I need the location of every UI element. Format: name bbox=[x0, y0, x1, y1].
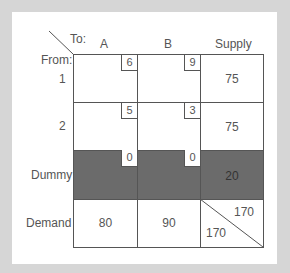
row-label-2: 2 bbox=[59, 119, 66, 133]
column-header-a: A bbox=[100, 37, 108, 51]
cost-2-b: 3 bbox=[184, 102, 201, 119]
column-header-supply: Supply bbox=[215, 37, 252, 51]
row-label-demand: Demand bbox=[26, 216, 71, 230]
cost-dummy-b: 0 bbox=[184, 150, 201, 167]
cost-2-a: 5 bbox=[121, 102, 138, 119]
demand-a: 80 bbox=[73, 216, 138, 230]
to-label: To: bbox=[70, 32, 86, 46]
supply-dummy: 20 bbox=[200, 169, 264, 183]
supply-1: 75 bbox=[200, 72, 264, 86]
cell-totals bbox=[200, 199, 264, 248]
row-label-dummy: Dummy bbox=[31, 168, 72, 182]
cost-1-b: 9 bbox=[184, 54, 201, 71]
demand-b: 90 bbox=[137, 216, 201, 230]
cost-dummy-a: 0 bbox=[121, 150, 138, 167]
total-demand: 170 bbox=[206, 226, 226, 240]
supply-2: 75 bbox=[200, 120, 264, 134]
column-header-b: B bbox=[164, 37, 172, 51]
from-label: From: bbox=[41, 53, 72, 67]
total-supply: 170 bbox=[234, 205, 254, 219]
cost-1-a: 6 bbox=[121, 54, 138, 71]
row-label-1: 1 bbox=[59, 72, 66, 86]
